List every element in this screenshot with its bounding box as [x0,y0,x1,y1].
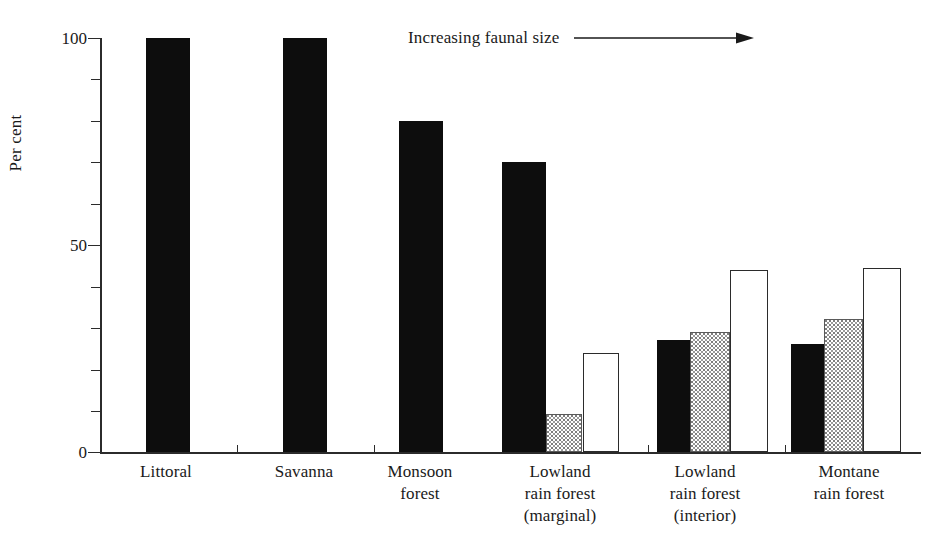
y-tick-20 [91,370,101,371]
x-tick-1 [237,445,238,453]
y-tick-100 [88,38,101,39]
y-tick-60 [91,204,101,205]
x-tick-0 [100,445,101,453]
bar-chart-figure: Per cent 100 50 0 Littoral Savanna Monso… [0,0,944,560]
bar-lowland-interior-small [657,340,690,452]
right-arrow-icon [574,30,754,46]
y-tick-10 [91,411,101,412]
bar-lowland-marginal-medium [546,414,582,452]
y-tick-50 [88,245,101,246]
y-tick-label-50: 50 [41,237,87,254]
bar-montane-large [863,268,901,452]
x-category-label-lowland-interior: Lowland rain forest (interior) [637,461,773,526]
bar-littoral-small [146,38,190,452]
y-tick-70 [91,162,101,163]
x-category-label-littoral: Littoral [98,461,234,483]
annotation-label: Increasing faunal size [408,28,560,48]
y-tick-90 [91,79,101,80]
faunal-size-annotation: Increasing faunal size [408,28,754,48]
bar-monsoon-forest-small [399,121,443,452]
y-tick-label-100: 100 [41,30,87,47]
x-category-label-lowland-marginal: Lowland rain forest (marginal) [492,461,628,526]
y-tick-80 [91,121,101,122]
x-tick-4 [648,445,649,453]
bar-lowland-marginal-small [502,162,546,452]
x-tick-2 [374,445,375,453]
y-tick-40 [91,287,101,288]
y-tick-30 [91,328,101,329]
x-tick-5 [785,445,786,453]
x-category-label-montane: Montane rain forest [781,461,917,505]
y-tick-label-0: 0 [41,444,87,461]
bar-montane-small [791,344,824,452]
x-category-label-monsoon-forest: Monsoon forest [352,461,488,505]
bar-lowland-marginal-large [583,353,619,452]
bar-lowland-interior-medium [690,332,730,452]
bar-lowland-interior-large [730,270,768,452]
bar-savanna-small [283,38,327,452]
bar-montane-medium [824,319,863,452]
y-axis-label: Per cent [6,78,34,208]
